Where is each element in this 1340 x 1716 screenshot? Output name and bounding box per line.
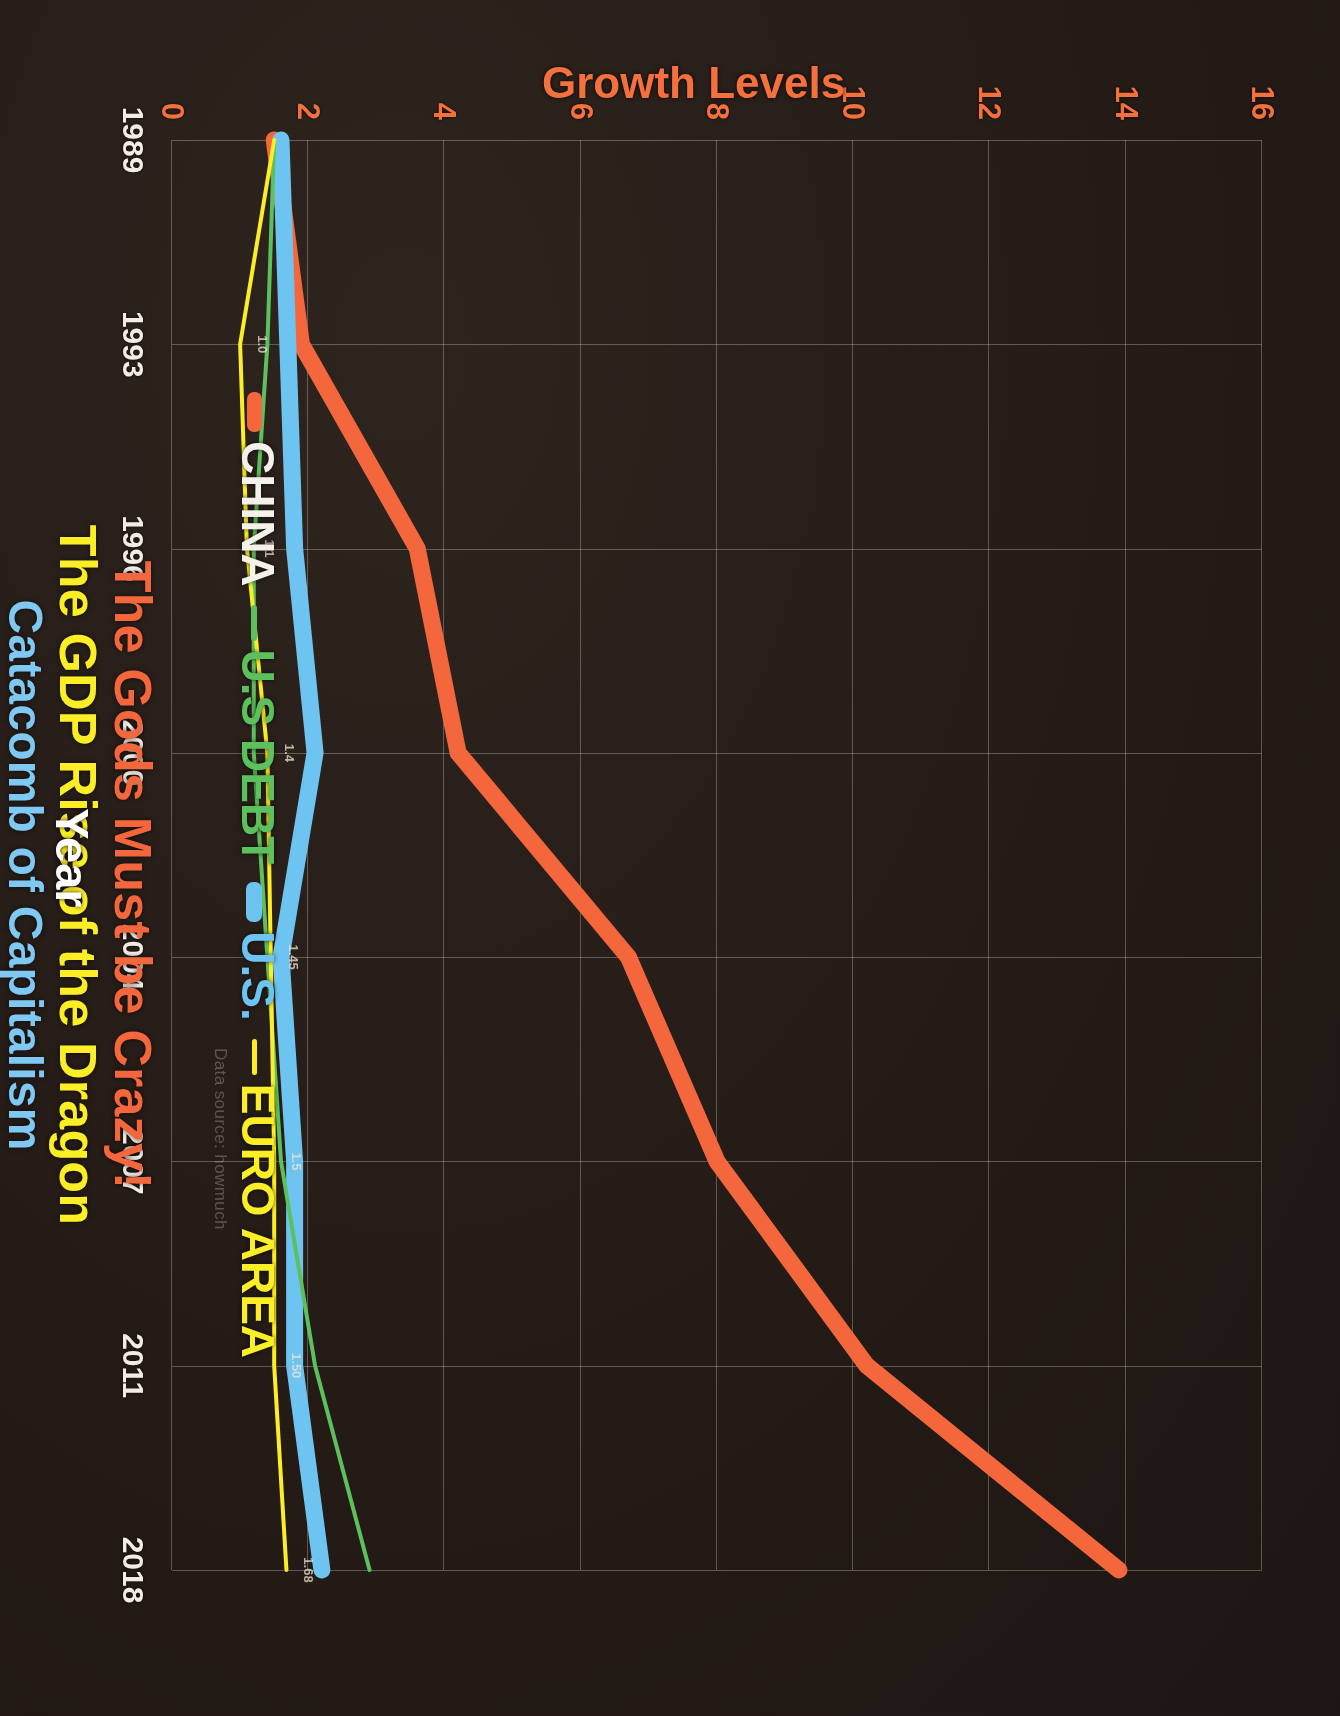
- series-line-china: [274, 140, 1119, 1570]
- legend-label: CHINA: [232, 441, 284, 587]
- legend-item-u-s-[interactable]: U.S.: [231, 882, 285, 1020]
- rotated-chart-stage: 1989199319962000200420072011201802468101…: [0, 0, 1340, 1716]
- chart: 1989199319962000200420072011201802468101…: [0, 0, 1340, 1716]
- chart-title-line-1: The Gods Must be Crazy!: [105, 300, 160, 1450]
- legend-swatch-icon: [246, 882, 262, 922]
- legend-swatch-icon: [252, 1039, 257, 1075]
- legend-swatch-icon: [247, 392, 262, 432]
- legend-label: U.S.: [232, 931, 284, 1020]
- legend-item-euro-area[interactable]: EURO AREA: [231, 1039, 285, 1358]
- legend-item-china[interactable]: CHINA: [231, 392, 285, 587]
- legend: CHINAU.S DEBTU.S.EURO AREA: [231, 300, 285, 1450]
- legend-label: EURO AREA: [232, 1084, 284, 1358]
- data-point-label: 1.68: [301, 1557, 316, 1582]
- source-note: Data source: howmuch: [210, 1048, 230, 1230]
- y-axis-title: Growth Levels: [542, 58, 845, 108]
- x-axis-title: Year: [45, 0, 100, 1716]
- data-point-label: 1.45: [285, 944, 300, 969]
- data-point-label: 1.50: [289, 1353, 304, 1378]
- series-layer: [0, 0, 1340, 1716]
- data-point-label: 1.5: [289, 1152, 304, 1170]
- legend-item-u-s-debt[interactable]: U.S DEBT: [231, 605, 285, 865]
- chart-title-line-3: Catacomb of Capitalism: [0, 300, 50, 1450]
- legend-label: U.S DEBT: [232, 650, 284, 865]
- legend-swatch-icon: [251, 605, 257, 641]
